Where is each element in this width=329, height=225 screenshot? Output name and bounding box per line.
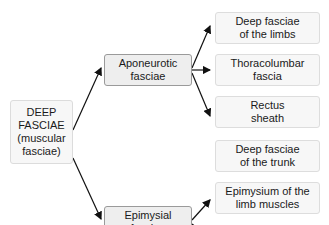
epimysial-label-line: Epimysial bbox=[124, 209, 171, 222]
leaf-label-line: Epimysium of the bbox=[225, 185, 309, 198]
leaf-label-line: Thoracolumbar bbox=[231, 57, 305, 70]
aponeurotic-label-line: fasciae bbox=[119, 70, 178, 83]
root-label-line: FASCIAE bbox=[17, 119, 65, 132]
leaf-label-line: sheath bbox=[250, 112, 284, 125]
node-thoracolumbar-fascia: Thoracolumbar fascia bbox=[215, 54, 320, 86]
leaf-label-line: Deep fasciae bbox=[235, 143, 299, 156]
leaf-label-line: fascia bbox=[231, 70, 305, 83]
node-deep-fasciae-limbs: Deep fasciae of the limbs bbox=[215, 12, 320, 44]
node-deep-fasciae-trunk: Deep fasciae of the trunk bbox=[215, 140, 320, 172]
arrow-aponeurotic-to-limbs bbox=[192, 26, 210, 68]
arrow-aponeurotic-to-rectus bbox=[192, 73, 210, 116]
root-label-line: (muscular bbox=[17, 132, 65, 145]
node-rectus-sheath: Rectus sheath bbox=[215, 96, 320, 128]
leaf-label-line: Rectus bbox=[250, 99, 284, 112]
root-label-line: fasciae) bbox=[17, 145, 65, 158]
arrow-root-to-epimysial bbox=[73, 158, 101, 219]
root-node-deep-fasciae: DEEP FASCIAE (muscular fasciae) bbox=[10, 100, 73, 164]
arrow-root-to-aponeurotic bbox=[73, 68, 101, 130]
leaf-label-line: limb muscles bbox=[225, 198, 309, 211]
arrow-epimysial-to-limb-muscles bbox=[192, 224, 210, 225]
node-epimysium-limb-muscles: Epimysium of the limb muscles bbox=[215, 182, 320, 214]
node-epimysial-fasciae: Epimysial fasciae bbox=[104, 206, 192, 225]
leaf-label-line: Deep fasciae bbox=[235, 15, 299, 28]
node-aponeurotic-fasciae: Aponeurotic fasciae bbox=[104, 54, 192, 86]
leaf-label-line: of the trunk bbox=[235, 156, 299, 169]
epimysial-label-line: fasciae bbox=[124, 222, 171, 225]
arrow-epimysial-to-trunk bbox=[192, 200, 210, 220]
root-label-line: DEEP bbox=[17, 106, 65, 119]
leaf-label-line: of the limbs bbox=[235, 28, 299, 41]
aponeurotic-label-line: Aponeurotic bbox=[119, 57, 178, 70]
